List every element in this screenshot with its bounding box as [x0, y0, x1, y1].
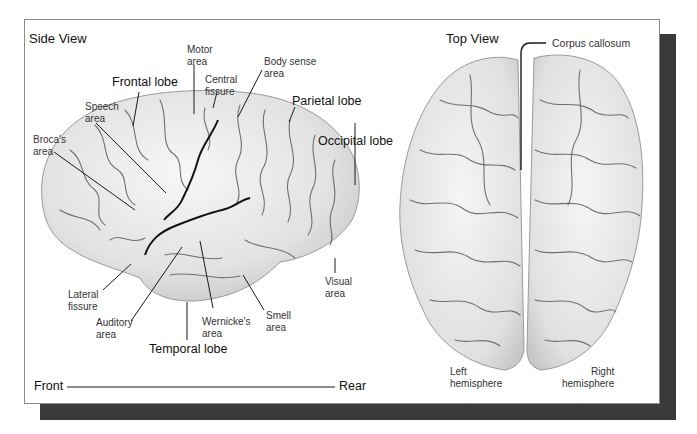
- label-brocas-area: Broca's area: [33, 134, 66, 158]
- label-central-fissure: Central fissure: [205, 74, 237, 98]
- side-view-title: Side View: [29, 31, 87, 46]
- label-corpus-callosum: Corpus callosum: [552, 37, 630, 49]
- label-smell-area: Smell area: [266, 310, 291, 334]
- label-body-sense-area: Body sense area: [264, 56, 316, 80]
- label-frontal-lobe: Frontal lobe: [112, 75, 178, 89]
- axis-rear-label: Rear: [339, 379, 366, 393]
- label-lateral-fissure: Lateral fissure: [68, 289, 99, 313]
- label-motor-area: Motor area: [187, 44, 213, 68]
- label-parietal-lobe: Parietal lobe: [292, 94, 362, 108]
- label-right-hemisphere: Right hemisphere: [562, 366, 614, 390]
- top-view-brain: [400, 43, 643, 370]
- axis-front-label: Front: [34, 379, 63, 393]
- label-temporal-lobe: Temporal lobe: [149, 342, 228, 356]
- label-auditory-area: Auditory area: [96, 317, 133, 341]
- left-hemisphere: [400, 57, 524, 370]
- label-visual-area: Visual area: [325, 276, 352, 300]
- top-view-title: Top View: [446, 31, 499, 46]
- label-occipital-lobe: Occipital lobe: [318, 134, 393, 148]
- label-wernickes-area: Wernicke's area: [202, 316, 250, 340]
- label-left-hemisphere: Left hemisphere: [450, 366, 502, 390]
- label-speech-area: Speech area: [85, 101, 119, 125]
